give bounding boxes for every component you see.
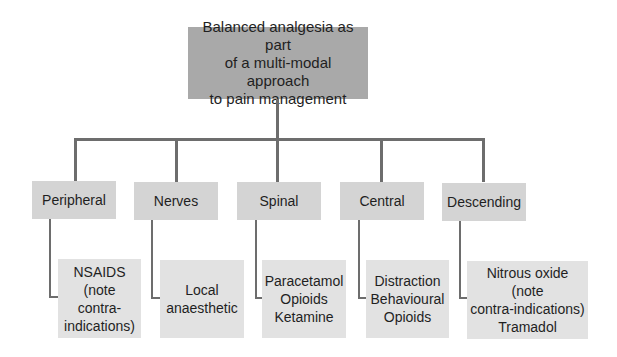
detail-descending: Nitrous oxide (note contra-indications) … bbox=[467, 261, 588, 339]
branch-descending bbox=[482, 138, 485, 182]
elbow-central-v bbox=[358, 220, 360, 299]
detail-central: Distraction Behavioural Opioids bbox=[366, 260, 449, 338]
detail-line: Ketamine bbox=[274, 308, 333, 326]
elbow-peripheral-v bbox=[49, 219, 51, 298]
detail-line: Behavioural bbox=[371, 290, 445, 308]
detail-line: indications) bbox=[64, 317, 135, 335]
horizontal-bus bbox=[74, 138, 485, 141]
elbow-central-h bbox=[358, 297, 366, 299]
detail-line: Opioids bbox=[280, 290, 327, 308]
branch-peripheral bbox=[74, 138, 77, 182]
branch-central bbox=[380, 138, 383, 182]
category-spinal: Spinal bbox=[237, 182, 321, 220]
category-label: Central bbox=[359, 193, 404, 209]
detail-line: Opioids bbox=[384, 308, 431, 326]
root-node: Balanced analgesia as part of a multi-mo… bbox=[188, 27, 368, 99]
category-label: Descending bbox=[447, 194, 521, 210]
category-descending: Descending bbox=[442, 183, 526, 221]
root-stem bbox=[276, 99, 279, 140]
root-line-1: Balanced analgesia as part bbox=[192, 18, 364, 54]
detail-line: NSAIDS bbox=[73, 263, 125, 281]
detail-line: Paracetamol bbox=[265, 272, 344, 290]
elbow-descending-v bbox=[459, 221, 461, 299]
detail-peripheral: NSAIDS (note contra- indications) bbox=[58, 259, 141, 338]
category-label: Spinal bbox=[260, 193, 299, 209]
detail-line: (note bbox=[512, 282, 544, 300]
category-central: Central bbox=[340, 182, 424, 220]
elbow-descending-h bbox=[459, 297, 467, 299]
detail-spinal: Paracetamol Opioids Ketamine bbox=[262, 260, 346, 338]
category-label: Nerves bbox=[154, 193, 198, 209]
detail-line: anaesthetic bbox=[166, 299, 238, 317]
elbow-spinal-v bbox=[255, 220, 257, 299]
detail-line: contra-indications) bbox=[470, 300, 584, 318]
category-label: Peripheral bbox=[42, 192, 106, 208]
detail-line: Local bbox=[185, 281, 218, 299]
detail-line: Nitrous oxide bbox=[487, 264, 569, 282]
category-peripheral: Peripheral bbox=[32, 181, 116, 219]
branch-spinal bbox=[276, 138, 279, 182]
detail-line: Distraction bbox=[374, 272, 440, 290]
elbow-nerves-h bbox=[151, 297, 160, 299]
branch-nerves bbox=[175, 138, 178, 182]
elbow-peripheral-h bbox=[49, 296, 58, 298]
elbow-nerves-v bbox=[151, 220, 153, 299]
detail-nerves: Local anaesthetic bbox=[160, 260, 244, 338]
detail-line: Tramadol bbox=[498, 318, 557, 336]
detail-line: (note bbox=[84, 281, 116, 299]
root-line-2: of a multi-modal approach bbox=[192, 54, 364, 90]
detail-line: contra- bbox=[78, 299, 122, 317]
category-nerves: Nerves bbox=[134, 182, 218, 220]
